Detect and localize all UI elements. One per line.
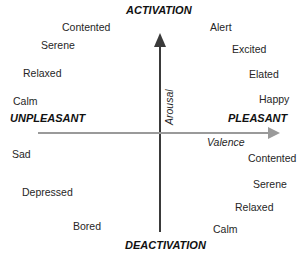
circumplex-affect-diagram: Arousal Valence ACTIVATION DEACTIVATION … [0,0,304,260]
pole-label-activation: ACTIVATION [126,4,192,17]
pole-label-deactivation: DEACTIVATION [125,239,206,252]
valence-axis-arrowhead-icon [268,127,280,139]
emotion-word-upper-right-2: Excited [232,43,266,55]
valence-axis-label: Valence [207,136,245,148]
emotion-word-upper-left-1: Contented [62,21,110,33]
emotion-word-upper-right-1: Alert [210,21,232,33]
emotion-word-upper-right-4: Happy [259,93,289,105]
emotion-word-lower-left-1: Sad [12,148,31,160]
pole-label-pleasant: PLEASANT [228,112,287,125]
emotion-word-lower-right-4: Calm [213,223,238,235]
arousal-axis-label: Arousal [163,89,175,125]
arousal-axis-line [159,46,161,232]
pole-label-unpleasant: UNPLEASANT [10,112,85,125]
emotion-word-upper-right-3: Elated [249,68,279,80]
emotion-word-lower-left-2: Depressed [22,186,73,198]
emotion-word-upper-left-2: Serene [41,39,75,51]
emotion-word-lower-right-1: Contented [248,152,296,164]
valence-axis-line [38,132,270,134]
emotion-word-upper-left-4: Calm [13,95,38,107]
emotion-word-lower-left-3: Bored [73,220,101,232]
emotion-word-lower-right-3: Relaxed [235,201,274,213]
emotion-word-lower-right-2: Serene [253,178,287,190]
emotion-word-upper-left-3: Relaxed [23,67,62,79]
arousal-axis-arrowhead-icon [154,33,166,47]
